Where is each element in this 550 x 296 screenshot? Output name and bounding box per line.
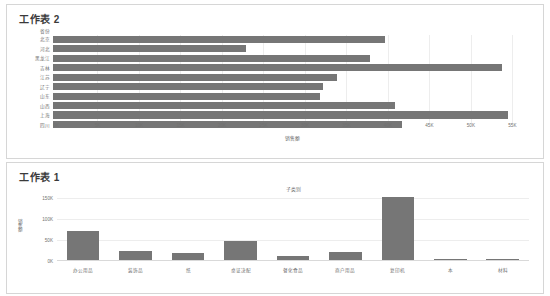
axis-corner-label-province: 省份 xyxy=(15,28,53,34)
bar-track xyxy=(53,35,529,44)
bar-row-label: 辽宁 xyxy=(15,84,53,90)
vertical-chart-y-ticks: 150K100K50K0K xyxy=(27,194,55,261)
bar-mark[interactable] xyxy=(53,55,370,62)
bar-track xyxy=(53,73,529,82)
x-axis-category-label: 桌证决配 xyxy=(214,267,266,273)
worksheet-panel-2[interactable]: 工作表 2 省份 北京河北黑龙江吉林江苏辽宁山东山西上海四川 0K5K10K15… xyxy=(6,4,544,159)
bar-mark[interactable] xyxy=(67,231,100,261)
bar-row-label: 江苏 xyxy=(15,74,53,80)
bar-column[interactable] xyxy=(214,194,266,261)
y-axis-tick: 0K xyxy=(47,259,53,264)
worksheet-title-2: 工作表 2 xyxy=(7,5,543,26)
bar-mark[interactable] xyxy=(53,111,508,118)
bar-row[interactable]: 辽宁 xyxy=(15,82,529,91)
worksheet-title-1: 工作表 1 xyxy=(7,163,543,184)
bar-column[interactable] xyxy=(162,194,214,261)
bar-mark[interactable] xyxy=(53,74,337,81)
x-axis-tick: 40K xyxy=(384,123,392,128)
bar-row[interactable]: 北京 xyxy=(15,35,529,44)
bar-row[interactable]: 江苏 xyxy=(15,73,529,82)
vertical-bar-chart[interactable]: 子类别 销售额 150K100K50K0K 办公用品装饰品纸桌证决配餐化食品商户… xyxy=(15,185,529,283)
bar-column[interactable] xyxy=(424,194,476,261)
y-axis-tick: 100K xyxy=(42,217,53,222)
bar-mark[interactable] xyxy=(224,241,257,261)
bar-track xyxy=(53,101,529,110)
x-axis-category-label: 商户用品 xyxy=(319,267,371,273)
bar-row[interactable]: 河北 xyxy=(15,44,529,53)
chart-header-subcategory: 子类别 xyxy=(57,185,529,192)
bar-mark[interactable] xyxy=(53,83,323,90)
x-axis-category-label: 本 xyxy=(424,267,476,273)
horizontal-bar-rows: 北京河北黑龙江吉林江苏辽宁山东山西上海四川 xyxy=(15,35,529,124)
bar-row-label: 河北 xyxy=(15,46,53,52)
bar-mark[interactable] xyxy=(53,93,320,100)
x-axis-tick: 30K xyxy=(301,123,309,128)
bar-column[interactable] xyxy=(267,194,319,261)
x-axis-tick: 20K xyxy=(218,123,226,128)
x-axis-category-label: 纸 xyxy=(162,267,214,273)
bar-track xyxy=(53,63,529,72)
bar-row-label: 四川 xyxy=(15,122,53,128)
x-axis-category-label: 装饰品 xyxy=(109,267,161,273)
bar-row[interactable]: 山东 xyxy=(15,92,529,101)
bar-column[interactable] xyxy=(57,194,109,261)
bar-track xyxy=(53,44,529,53)
bar-column[interactable] xyxy=(372,194,424,261)
x-axis-tick: 15K xyxy=(176,123,184,128)
bar-mark[interactable] xyxy=(53,102,395,109)
x-axis-tick: 25K xyxy=(259,123,267,128)
x-axis-tick: 50K xyxy=(467,123,475,128)
bar-row[interactable]: 山西 xyxy=(15,101,529,110)
x-axis-title-sales: 销售额 xyxy=(56,134,529,141)
bar-track xyxy=(53,111,529,120)
bar-mark[interactable] xyxy=(53,36,385,43)
worksheet-panel-1[interactable]: 工作表 1 子类别 销售额 150K100K50K0K 办公用品装饰品纸桌证决配… xyxy=(6,162,544,294)
horizontal-chart-x-axis: 0K5K10K15K20K25K30K35K40K45K50K55K xyxy=(56,123,529,132)
y-axis-title-sales: 销售额 xyxy=(17,219,22,231)
bar-mark[interactable] xyxy=(382,197,415,261)
x-axis-category-label: 复印机 xyxy=(372,267,424,273)
vertical-chart-plot-area xyxy=(57,194,529,261)
bar-track xyxy=(53,82,529,91)
x-axis-category-label: 办公用品 xyxy=(57,267,109,273)
x-axis-tick: 10K xyxy=(135,123,143,128)
bar-track xyxy=(53,92,529,101)
y-axis-tick: 150K xyxy=(42,196,53,201)
x-axis-tick: 5K xyxy=(95,123,101,128)
bar-column[interactable] xyxy=(319,194,371,261)
bar-row-label: 北京 xyxy=(15,36,53,42)
x-axis-tick: 35K xyxy=(342,123,350,128)
bar-column[interactable] xyxy=(109,194,161,261)
x-axis-tick: 0K xyxy=(53,123,59,128)
bar-row[interactable]: 吉林 xyxy=(15,63,529,72)
horizontal-bar-chart[interactable]: 省份 北京河北黑龙江吉林江苏辽宁山东山西上海四川 0K5K10K15K20K25… xyxy=(15,28,529,140)
vertical-chart-baseline xyxy=(57,260,529,261)
vertical-chart-x-labels: 办公用品装饰品纸桌证决配餐化食品商户用品复印机本材料 xyxy=(57,267,529,273)
bar-column[interactable] xyxy=(477,194,529,261)
bar-row-label: 山东 xyxy=(15,93,53,99)
bar-mark[interactable] xyxy=(53,64,502,71)
bar-row[interactable]: 上海 xyxy=(15,111,529,120)
x-axis-category-label: 餐化食品 xyxy=(267,267,319,273)
bar-row-label: 山西 xyxy=(15,103,53,109)
vertical-bar-series xyxy=(57,194,529,261)
y-axis-tick: 50K xyxy=(45,238,53,243)
bar-mark[interactable] xyxy=(53,45,246,52)
x-axis-tick: 45K xyxy=(425,123,433,128)
bar-row-label: 吉林 xyxy=(15,65,53,71)
bar-row-label: 黑龙江 xyxy=(15,55,53,61)
bar-row-label: 上海 xyxy=(15,112,53,118)
bar-track xyxy=(53,54,529,63)
x-axis-category-label: 材料 xyxy=(477,267,529,273)
dashboard-container: 工作表 2 省份 北京河北黑龙江吉林江苏辽宁山东山西上海四川 0K5K10K15… xyxy=(0,0,550,296)
bar-row[interactable]: 黑龙江 xyxy=(15,54,529,63)
x-axis-tick: 55K xyxy=(508,123,516,128)
